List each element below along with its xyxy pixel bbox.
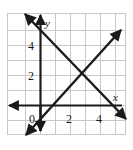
y-tick-label-2: 2	[28, 69, 34, 83]
graph-canvas: y x 0 2 4 2 4	[0, 0, 133, 150]
y-tick-label-4: 4	[28, 39, 34, 53]
coordinate-plane-figure: y x 0 2 4 2 4	[0, 0, 133, 150]
y-axis-label: y	[44, 17, 50, 29]
x-axis-label: x	[112, 91, 118, 103]
x-tick-label-4: 4	[96, 112, 102, 126]
origin-label: 0	[29, 112, 35, 126]
x-tick-label-2: 2	[66, 112, 72, 126]
